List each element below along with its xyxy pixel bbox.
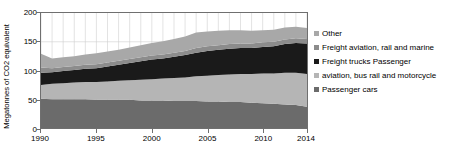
x-tick-label-2014: 2014: [297, 134, 315, 143]
legend-swatch-icon: [314, 87, 319, 92]
x-tick-mark-2010: [263, 129, 264, 133]
chart-legend: OtherFreight aviation, rail and marineFr…: [314, 26, 454, 96]
legend-swatch-icon: [314, 31, 319, 36]
x-tick-label-1990: 1990: [31, 134, 49, 143]
legend-item-label: aviation, bus rail and motorcycle: [322, 71, 436, 80]
stacked-area-svg: [41, 13, 307, 128]
legend-item[interactable]: Freight trucks Passenger: [314, 54, 454, 68]
legend-item-label: Passenger cars: [322, 85, 378, 94]
x-tick-label-2010: 2010: [254, 134, 272, 143]
y-tick-label-200: 200: [24, 8, 37, 17]
chart-figure: Megatonnes of CO2 equivalent 200 150 100…: [0, 0, 454, 153]
x-tick-label-1995: 1995: [87, 134, 105, 143]
x-tick-mark-2000: [152, 129, 153, 133]
x-tick-label-2005: 2005: [199, 134, 217, 143]
y-tick-label-100: 100: [24, 66, 37, 75]
x-tick-mark-2005: [208, 129, 209, 133]
legend-item[interactable]: Other: [314, 26, 454, 40]
legend-swatch-icon: [314, 73, 319, 78]
legend-item[interactable]: Passenger cars: [314, 82, 454, 96]
legend-item-label: Freight aviation, rail and marine: [322, 43, 434, 52]
plot-area: [40, 12, 308, 129]
legend-swatch-icon: [314, 59, 319, 64]
legend-swatch-icon: [314, 45, 319, 50]
y-tick-label-150: 150: [24, 37, 37, 46]
legend-item-label: Other: [322, 29, 342, 38]
x-tick-label-2000: 2000: [143, 134, 161, 143]
legend-item[interactable]: Freight aviation, rail and marine: [314, 40, 454, 54]
y-axis-tick-labels: 200 150 100 50 0: [12, 0, 37, 153]
legend-item-label: Freight trucks Passenger: [322, 57, 411, 66]
x-tick-mark-1990: [40, 129, 41, 133]
x-tick-mark-1995: [96, 129, 97, 133]
legend-item[interactable]: aviation, bus rail and motorcycle: [314, 68, 454, 82]
x-tick-mark-2014: [307, 129, 308, 133]
